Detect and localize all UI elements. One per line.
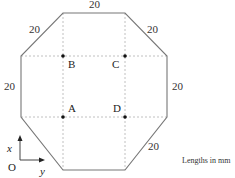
- dashed-grid: [21, 13, 167, 170]
- point-label-c: C: [112, 58, 119, 70]
- edge-label-top-left: 20: [29, 23, 41, 35]
- point-b-dot: [61, 54, 65, 58]
- point-c-dot: [123, 54, 127, 58]
- edge-label-top-right: 20: [147, 23, 159, 35]
- x-axis-arrow-icon: [18, 135, 23, 141]
- x-axis-label: x: [6, 142, 12, 154]
- point-label-b: B: [68, 58, 75, 70]
- point-label-d: D: [113, 102, 121, 114]
- y-axis-arrow-icon: [39, 158, 45, 163]
- y-axis-label: y: [39, 165, 45, 177]
- edge-label-bottom-right: 20: [148, 140, 160, 152]
- point-label-a: A: [68, 102, 76, 114]
- octagon-outline: [21, 13, 167, 170]
- point-d-dot: [123, 115, 127, 119]
- edge-label-left: 20: [4, 80, 16, 92]
- point-a-dot: [61, 115, 65, 119]
- edge-label-top: 20: [89, 0, 101, 10]
- origin-label: O: [8, 161, 16, 173]
- octagon-diagram: B C A D 20 20 20 20 20 20 x y O Lengths …: [0, 0, 235, 178]
- units-note: Lengths in mm: [182, 156, 231, 165]
- axes: [18, 135, 46, 163]
- edge-label-right: 20: [172, 80, 184, 92]
